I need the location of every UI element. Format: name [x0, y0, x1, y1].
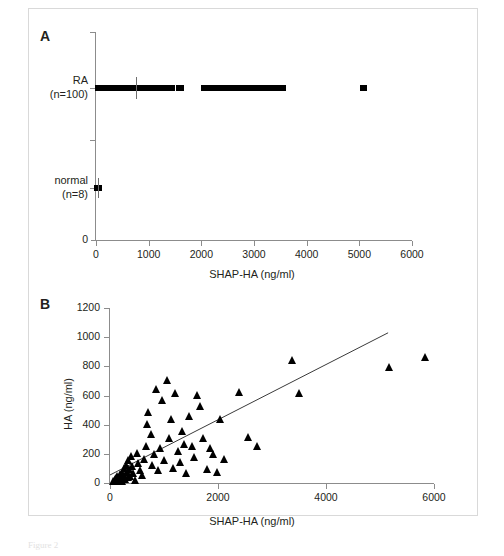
panel-b-y-tick-label-5: 1000	[58, 330, 100, 342]
panel-b-y-tick-label-0: 0	[58, 476, 100, 488]
panel-b-datapoint	[140, 455, 148, 463]
panel-b-x-tick-1	[218, 484, 219, 489]
panel-b-y-tick-label-1: 200	[58, 447, 100, 459]
panel-b-datapoint	[213, 468, 221, 476]
panel-b-datapoint	[253, 442, 261, 450]
panel-a-x-tick-label-2: 2000	[176, 248, 226, 260]
panel-a-group-label-ra: RA	[20, 74, 88, 87]
panel-a-x-axis-label: SHAP-HA (ng/ml)	[0, 268, 504, 280]
panel-b-y-tick-label-4: 800	[58, 359, 100, 371]
panel-b-datapoint	[203, 465, 211, 473]
panel-a-median-ra	[136, 77, 137, 99]
panel-b-datapoint	[174, 447, 182, 455]
panel-a-datapoint-ra	[179, 85, 184, 91]
panel-a-y-tick-0	[90, 32, 96, 33]
panel-b-y-tick-6	[104, 308, 110, 309]
caption-text: Figure 2	[28, 540, 58, 550]
panel-b-datapoint	[185, 412, 193, 420]
panel-b-datapoint	[142, 442, 150, 450]
panel-a-x-tick-6	[412, 241, 413, 246]
panel-a-x-tick-label-5: 5000	[334, 248, 384, 260]
panel-b-datapoint	[190, 453, 198, 461]
panel-a-x-tick-5	[359, 241, 360, 246]
figure-caption: Figure 2	[28, 534, 478, 552]
panel-b-datapoint	[138, 471, 146, 479]
panel-a-group-count-normal: (n=8)	[20, 188, 88, 201]
panel-b-datapoint	[193, 391, 201, 399]
panel-a-x-tick-label-4: 4000	[282, 248, 332, 260]
panel-b-datapoint	[209, 450, 217, 458]
panel-b-datapoint	[188, 442, 196, 450]
panel-b-x-tick-label-1: 2000	[193, 491, 243, 503]
panel-a-x-tick-label-6: 6000	[387, 248, 437, 260]
panel-b-datapoint	[171, 389, 179, 397]
panel-b-x-axis	[110, 483, 434, 484]
panel-a-datapoint-ra	[362, 85, 367, 91]
figure-container: A 0RA(n=100)normal(n=8)01000200030004000…	[0, 0, 504, 556]
panel-b-datapoint	[143, 420, 151, 428]
panel-b-datapoint	[144, 408, 152, 416]
panel-a-group-count-ra: (n=100)	[20, 88, 88, 101]
panel-a-median-normal	[98, 178, 99, 198]
panel-a-x-tick-2	[201, 241, 202, 246]
panel-b-x-tick-label-3: 6000	[409, 491, 459, 503]
panel-b-datapoint	[244, 433, 252, 441]
panel-b-datapoint	[163, 376, 171, 384]
panel-b-y-tick-2	[104, 425, 110, 426]
panel-b-datapoint	[152, 385, 160, 393]
panel-a-group-label-normal: normal	[20, 174, 88, 187]
panel-b-datapoint	[220, 455, 228, 463]
panel-b-x-tick-2	[326, 484, 327, 489]
panel-b-datapoint	[385, 363, 393, 371]
panel-b-y-tick-1	[104, 454, 110, 455]
panel-b-x-tick-label-2: 4000	[301, 491, 351, 503]
panel-b-y-tick-4	[104, 366, 110, 367]
panel-b-datapoint	[156, 444, 164, 452]
panel-b-datapoint	[288, 356, 296, 364]
panel-b-x-axis-label: SHAP-HA (ng/ml)	[0, 515, 504, 527]
panel-b-x-tick-label-0: 0	[85, 491, 135, 503]
panel-b-y-axis-label: HA (ng/ml)	[62, 378, 74, 430]
panel-a-y-axis	[95, 32, 96, 240]
panel-a-y-origin-label: 0	[70, 233, 88, 245]
panel-a-x-tick-0	[96, 241, 97, 246]
panel-a-x-tick-label-1: 1000	[124, 248, 174, 260]
panel-b-x-tick-3	[434, 484, 435, 489]
panel-a-x-tick-4	[307, 241, 308, 246]
panel-a-x-tick-3	[254, 241, 255, 246]
panel-b-datapoint	[158, 396, 166, 404]
panel-b-datapoint	[176, 458, 184, 466]
panel-b-datapoint	[421, 353, 429, 361]
panel-b-y-tick-5	[104, 337, 110, 338]
panel-b-datapoint	[167, 415, 175, 423]
panel-b-y-tick-label-6: 1200	[58, 301, 100, 313]
panel-b-datapoint	[165, 434, 173, 442]
panel-b-letter: B	[40, 296, 50, 312]
panel-a-datapoint-ra	[281, 85, 286, 91]
panel-b-datapoint	[180, 440, 188, 448]
panel-a-x-tick-label-3: 3000	[229, 248, 279, 260]
panel-b-datapoint	[199, 434, 207, 442]
panel-b-datapoint	[196, 402, 204, 410]
panel-a-y-tick-2	[90, 140, 96, 141]
panel-a-letter: A	[40, 28, 50, 44]
panel-a-x-tick-1	[149, 241, 150, 246]
panel-b-datapoint	[235, 388, 243, 396]
panel-b-datapoint	[147, 430, 155, 438]
panel-b-y-tick-3	[104, 396, 110, 397]
panel-b-datapoint	[154, 466, 162, 474]
panel-b-datapoint	[178, 427, 186, 435]
panel-b-datapoint	[182, 469, 190, 477]
panel-a-x-tick-label-0: 0	[71, 248, 121, 260]
panel-b-datapoint	[216, 415, 224, 423]
panel-b-datapoint	[295, 389, 303, 397]
panel-b-datapoint	[160, 456, 168, 464]
